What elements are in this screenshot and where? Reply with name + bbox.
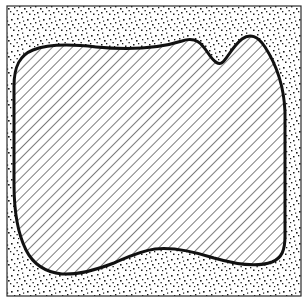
figure-root xyxy=(0,0,308,305)
hatched-region-fill xyxy=(14,36,285,274)
figure-canvas xyxy=(0,0,308,305)
